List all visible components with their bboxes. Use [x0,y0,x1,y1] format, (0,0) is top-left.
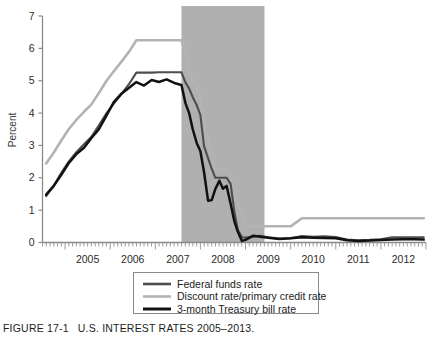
y-axis-title: Percent [7,113,18,148]
x-tick-label: 2012 [392,253,416,265]
x-tick-label: 2008 [211,253,235,265]
x-tick-group: 20052006200720082009201020112012 [43,243,427,265]
x-tick-label: 2009 [256,253,280,265]
y-tick-label: 6 [29,42,35,54]
recession-band [181,6,264,243]
legend-label: 3-month Treasury bill rate [177,303,296,315]
y-tick-label: 3 [29,139,35,151]
x-tick-label: 2005 [76,253,100,265]
figure-number: FIGURE 17-1 [3,322,69,334]
legend-label: Discount rate/primary credit rate [177,290,327,302]
legend-label: Federal funds rate [177,278,262,290]
y-tick-label: 0 [29,236,35,248]
y-tick-label: 1 [29,204,35,216]
figure-title: U.S. INTEREST RATES 2005–2013. [78,322,255,334]
recession-band-group [181,6,264,243]
y-tick-label: 2 [29,171,35,183]
y-tick-label: 5 [29,74,35,86]
x-tick-label: 2007 [166,253,190,265]
x-tick-label: 2006 [121,253,145,265]
y-tick-group: 01234567 [29,10,43,249]
y-tick-label: 7 [29,10,35,22]
x-tick-label: 2011 [347,253,370,265]
legend: Federal funds rateDiscount rate/primary … [134,273,327,315]
figure-caption: FIGURE 17-1U.S. INTEREST RATES 2005–2013… [3,322,254,334]
figure-container: 01234567 2005200620072008200920102011201… [0,0,436,342]
x-tick-label: 2010 [302,253,326,265]
interest-rates-chart: 01234567 2005200620072008200920102011201… [0,0,436,320]
y-tick-label: 4 [29,107,35,119]
